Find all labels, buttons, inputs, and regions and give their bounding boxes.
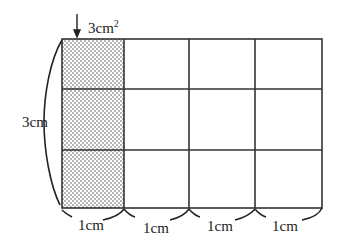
- down-arrow-icon: [74, 14, 80, 37]
- shaded-column: [62, 39, 124, 208]
- height-label: 3cm: [22, 114, 48, 130]
- rectangle-area-diagram: 3cm2 3cm 1cm 1cm 1cm 1cm: [0, 0, 342, 246]
- width-label-3: 1cm: [207, 218, 233, 234]
- width-label-4: 1cm: [272, 218, 298, 234]
- width-label-2: 1cm: [143, 220, 169, 236]
- width-label-1: 1cm: [78, 217, 104, 233]
- shaded-area-label: 3cm2: [88, 18, 119, 36]
